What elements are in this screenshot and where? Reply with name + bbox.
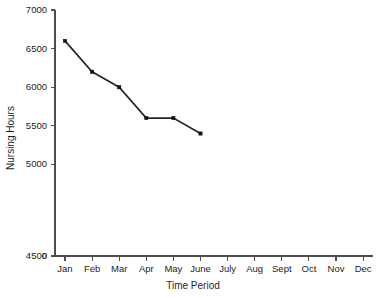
- x-tick-label-sept: Sept: [272, 264, 292, 274]
- chart-axes: [55, 10, 373, 256]
- y-axis-title: Nursing Hours: [6, 93, 16, 183]
- data-point-may: [172, 116, 175, 119]
- data-point-june: [199, 132, 202, 135]
- chart-tick-marks: [51, 10, 364, 261]
- x-tick-label-july: July: [219, 264, 236, 274]
- x-tick-label-dec: Dec: [355, 264, 372, 274]
- y-tick-label: 7000: [0, 5, 47, 15]
- x-tick-label-jan: Jan: [57, 264, 72, 274]
- x-tick-label-aug: Aug: [246, 264, 263, 274]
- line-chart: 0450050005500600065007000 JanFebMarAprMa…: [0, 0, 386, 298]
- chart-plot-area: [0, 0, 386, 298]
- x-tick-label-mar: Mar: [111, 264, 127, 274]
- y-tick-label: 6000: [0, 82, 47, 92]
- series-markers: [63, 39, 202, 135]
- data-point-feb: [91, 70, 94, 73]
- x-tick-label-june: June: [190, 264, 211, 274]
- x-tick-label-apr: Apr: [139, 264, 154, 274]
- x-tick-label-feb: Feb: [84, 264, 100, 274]
- y-tick-label: 4500: [0, 251, 47, 261]
- series-line-nursing-hours: [65, 41, 201, 134]
- x-tick-label-may: May: [164, 264, 182, 274]
- x-tick-label-oct: Oct: [302, 264, 317, 274]
- y-tick-label: 6500: [0, 44, 47, 54]
- x-tick-label-nov: Nov: [328, 264, 345, 274]
- data-point-jan: [63, 39, 66, 42]
- x-axis-title: Time Period: [0, 281, 386, 291]
- data-point-apr: [145, 116, 148, 119]
- data-point-mar: [118, 86, 121, 89]
